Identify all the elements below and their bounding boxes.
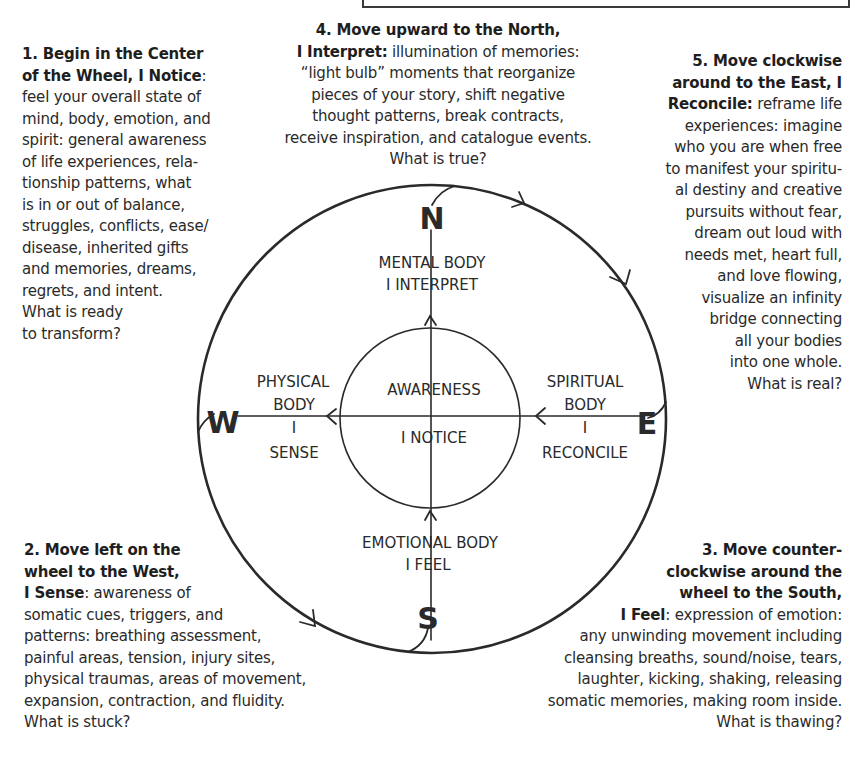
center-label-notice: I NOTICE — [401, 429, 467, 447]
east-label-i: I — [583, 419, 587, 437]
south-label-feel: I FEEL — [405, 556, 451, 574]
north-label-interpret: I INTERPRET — [386, 276, 479, 294]
west-label-body: BODY — [273, 396, 316, 414]
inner-awareness-circle — [340, 328, 520, 508]
medicine-wheel-diagram: N S E W AWARENESS I NOTICE MENTAL BODY I… — [0, 0, 864, 769]
north-letter: N — [419, 201, 444, 236]
west-label-sense: SENSE — [269, 444, 318, 462]
south-letter: S — [417, 601, 439, 636]
east-label-reconcile: RECONCILE — [542, 444, 628, 462]
north-label-mental-body: MENTAL BODY — [379, 254, 487, 272]
east-label-body: BODY — [564, 396, 607, 414]
south-label-emotional-body: EMOTIONAL BODY — [362, 534, 499, 552]
east-label-spiritual: SPIRITUAL — [547, 373, 624, 391]
east-letter: E — [637, 406, 658, 441]
center-label-awareness: AWARENESS — [387, 381, 480, 399]
west-letter: W — [206, 405, 239, 440]
west-label-i: I — [292, 419, 296, 437]
west-label-physical: PHYSICAL — [257, 373, 330, 391]
